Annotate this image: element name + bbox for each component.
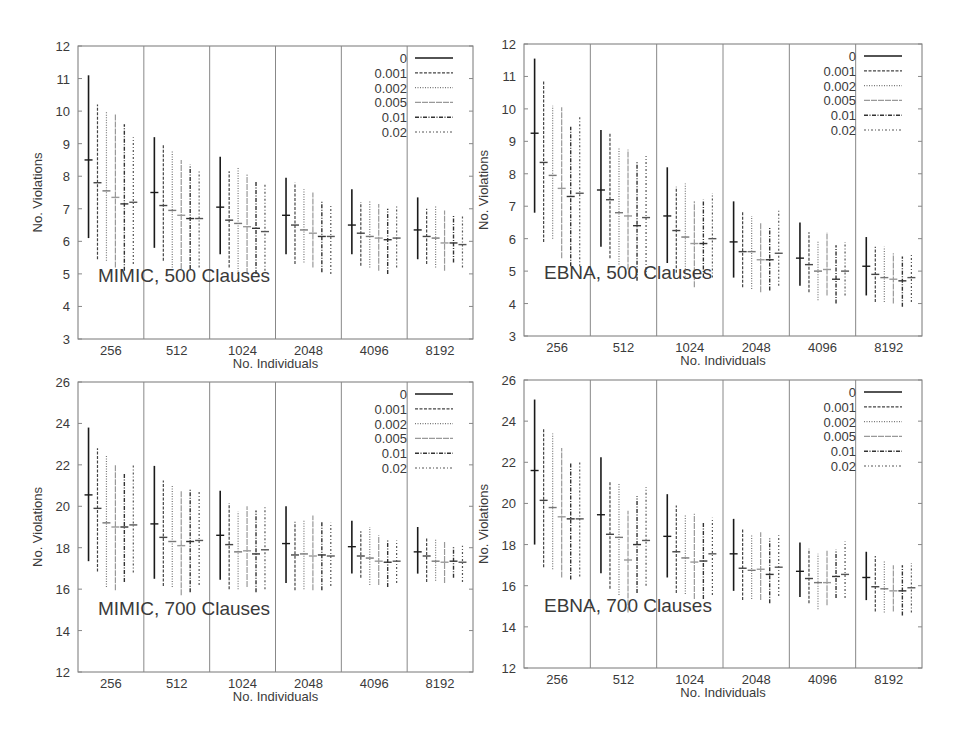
y-tick-label: 9 <box>63 137 70 152</box>
y-tick-label: 24 <box>502 414 516 429</box>
y-tick-label: 26 <box>502 373 516 388</box>
x-tick-label: 8192 <box>874 340 903 355</box>
legend-label: 0.001 <box>374 66 407 81</box>
legend: 00.0010.0020.0050.010.02 <box>823 49 902 138</box>
chart-ebna-700: 1214161820222426No. Violations2565121024… <box>476 373 922 700</box>
y-tick-label: 16 <box>502 579 516 594</box>
y-tick-label: 5 <box>63 267 70 282</box>
x-tick-label: 512 <box>613 672 635 687</box>
y-axis-label: No. Violations <box>30 487 45 567</box>
y-tick-label: 11 <box>57 72 71 87</box>
legend-label: 0.02 <box>382 125 407 140</box>
y-tick-label: 7 <box>63 202 70 217</box>
y-tick-label: 9 <box>509 134 516 149</box>
x-axis-label: No. Individuals <box>233 356 319 371</box>
x-tick-label: 4096 <box>808 340 837 355</box>
legend-label: 0.02 <box>382 461 407 476</box>
y-tick-label: 24 <box>56 416 70 431</box>
y-tick-label: 6 <box>509 232 516 247</box>
x-axis-label: No. Individuals <box>233 689 319 704</box>
series-0 <box>85 428 422 583</box>
y-tick-label: 3 <box>509 329 516 344</box>
y-tick-label: 8 <box>509 167 516 182</box>
x-tick-label: 512 <box>613 340 635 355</box>
series-0-02 <box>129 137 466 274</box>
chart-title: EBNA, 500 Clauses <box>544 262 712 283</box>
legend-label: 0 <box>849 49 856 64</box>
legend-label: 0.01 <box>831 444 856 459</box>
legend-label: 0.005 <box>823 93 856 108</box>
x-tick-label: 8192 <box>426 343 455 358</box>
chart-title: EBNA, 700 Clauses <box>544 595 712 616</box>
chart-ebna-500: 3456789101112No. Violations2565121024204… <box>476 37 922 368</box>
legend-label: 0 <box>400 387 407 402</box>
chart-title: MIMIC, 500 Clauses <box>98 265 270 286</box>
legend-label: 0.002 <box>823 415 856 430</box>
figure: 3456789101112No. Violations2565121024204… <box>0 0 960 731</box>
chart-title: MIMIC, 700 Clauses <box>98 598 270 619</box>
y-tick-label: 18 <box>502 538 516 553</box>
legend-label: 0.002 <box>823 79 856 94</box>
x-tick-label: 4096 <box>808 672 837 687</box>
legend: 00.0010.0020.0050.010.02 <box>374 51 453 140</box>
y-tick-label: 20 <box>502 496 516 511</box>
x-tick-label: 8192 <box>426 676 455 691</box>
series-0-02 <box>129 464 466 589</box>
x-tick-label: 8192 <box>874 672 903 687</box>
legend-label: 0.02 <box>831 123 856 138</box>
series-0 <box>85 75 422 259</box>
y-tick-label: 22 <box>502 455 516 470</box>
legend-label: 0.001 <box>823 64 856 79</box>
series-0 <box>531 59 871 296</box>
x-tick-label: 256 <box>546 672 568 687</box>
x-tick-label: 512 <box>166 676 188 691</box>
y-tick-label: 14 <box>502 620 516 635</box>
x-tick-label: 4096 <box>360 676 389 691</box>
y-tick-label: 16 <box>56 582 70 597</box>
y-tick-label: 14 <box>56 624 70 639</box>
x-tick-label: 256 <box>546 340 568 355</box>
x-tick-label: 256 <box>100 676 122 691</box>
chart-mimic-700: 1214161820222426No. Violations2565121024… <box>30 375 473 704</box>
y-axis-label: No. Violations <box>30 152 45 232</box>
y-tick-label: 6 <box>63 234 70 249</box>
x-axis-label: No. Individuals <box>680 353 766 368</box>
legend: 00.0010.0020.0050.010.02 <box>374 387 453 476</box>
series-0-02 <box>576 461 916 612</box>
x-axis-label: No. Individuals <box>680 685 766 700</box>
figure-canvas: 3456789101112No. Violations2565121024204… <box>0 0 960 731</box>
y-tick-label: 7 <box>509 199 516 214</box>
y-tick-label: 10 <box>56 104 70 119</box>
y-tick-label: 22 <box>56 458 70 473</box>
x-tick-label: 256 <box>100 343 122 358</box>
legend-label: 0.001 <box>823 400 856 415</box>
y-tick-label: 4 <box>63 299 70 314</box>
legend-label: 0.002 <box>374 81 407 96</box>
y-tick-label: 12 <box>502 37 516 52</box>
y-tick-label: 5 <box>509 264 516 279</box>
legend: 00.0010.0020.0050.010.02 <box>823 385 902 474</box>
legend-label: 0.005 <box>374 95 407 110</box>
chart-mimic-500: 3456789101112No. Violations2565121024204… <box>30 39 473 371</box>
x-tick-label: 512 <box>166 343 188 358</box>
y-tick-label: 3 <box>63 332 70 347</box>
legend-label: 0.01 <box>382 110 407 125</box>
legend-label: 0.002 <box>374 417 407 432</box>
legend-label: 0.005 <box>374 431 407 446</box>
y-tick-label: 10 <box>502 102 516 117</box>
y-tick-label: 8 <box>63 169 70 184</box>
y-axis-label: No. Violations <box>476 484 491 564</box>
series-0 <box>531 400 871 601</box>
series-0-005 <box>111 465 448 595</box>
legend-label: 0.001 <box>374 402 407 417</box>
legend-label: 0.01 <box>382 446 407 461</box>
y-tick-label: 26 <box>56 375 70 390</box>
legend-label: 0 <box>400 51 407 66</box>
y-tick-label: 11 <box>503 69 517 84</box>
legend-label: 0.01 <box>831 108 856 123</box>
y-tick-label: 20 <box>56 499 70 514</box>
y-tick-label: 12 <box>502 661 516 676</box>
legend-label: 0.02 <box>831 459 856 474</box>
legend-label: 0 <box>849 385 856 400</box>
y-tick-label: 18 <box>56 541 70 556</box>
